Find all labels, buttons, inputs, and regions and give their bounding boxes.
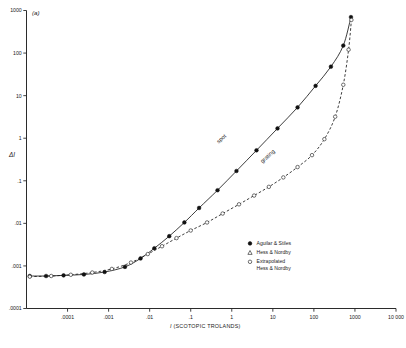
x-tick-label: 1000 [349,314,361,320]
legend-label-2: Extrapolated [257,258,286,264]
data-point-grating [69,273,73,277]
data-point-spot [296,106,300,110]
tvi-log-log-plot: 1000100101.1.01.001.0001.0001.001.01.111… [0,0,406,348]
data-point-grating [205,221,209,225]
data-point-spot [276,127,280,131]
legend-marker-0 [248,242,252,246]
data-point-grating [296,165,300,169]
data-point-spot [167,234,171,238]
data-point-spot [314,84,318,88]
legend-label-0: Aguilar & Stiles [257,240,292,246]
series-line-grating [30,20,352,277]
data-point-spot [329,65,333,69]
x-tick-label: 1 [230,314,233,320]
data-point-grating [342,83,346,87]
data-point-spot [341,44,345,48]
y-tick-label: 10 [16,93,22,99]
data-point-spot [183,221,187,225]
data-point-grating [310,153,314,157]
panel-label: (a) [32,9,40,16]
data-point-grating [49,274,53,278]
y-tick-label: 100 [13,50,22,56]
y-tick-label: .1 [17,178,21,184]
curve-label-grating: grating [259,148,276,164]
data-point-spot [123,265,127,269]
data-point-spot [255,148,259,152]
data-point-grating [221,212,225,216]
y-tick-label: .001 [12,263,22,269]
y-axis-title: ΔI [8,151,15,158]
data-point-spot [235,169,239,173]
x-tick-label: .1 [189,314,193,320]
data-point-spot [197,206,201,210]
x-tick-label: 10 000 [388,314,404,320]
legend-marker-1 [248,251,252,255]
x-tick-label: 10 [270,314,276,320]
series-line-spot [30,17,351,276]
legend-label-1: Hess & Nordby [257,249,292,255]
data-point-grating [110,267,114,271]
data-point-grating [146,252,150,256]
data-point-spot [216,188,220,192]
data-point-grating [91,271,95,275]
data-point-grating [189,229,193,233]
data-point-grating [350,18,354,22]
x-tick-label: .0001 [61,314,74,320]
data-point-grating [323,137,327,141]
y-tick-label: .0001 [9,305,22,311]
legend-marker-2 [248,260,252,264]
x-tick-label: .001 [104,314,114,320]
x-axis-title: I (SCOTOPIC TROLANDS) [170,323,241,329]
data-point-grating [175,236,179,240]
data-point-grating [237,203,241,207]
data-point-grating [160,244,164,248]
data-point-grating [333,115,337,119]
figure-panel-a: 1000100101.1.01.001.0001.0001.001.01.111… [0,0,406,348]
data-point-grating [282,176,286,180]
data-point-grating [267,185,271,189]
data-point-grating [252,194,256,198]
data-point-grating [129,261,133,265]
x-tick-label: 100 [310,314,319,320]
curve-label-spot: spot [215,133,227,145]
y-tick-label: 1000 [10,7,22,13]
data-point-grating [28,275,32,279]
y-tick-label: 1 [19,135,22,141]
x-tick-label: .01 [146,314,153,320]
legend-label-2-cont: Hess & Nordby [257,265,292,271]
y-tick-label: .01 [14,220,21,226]
data-point-grating [347,48,351,52]
